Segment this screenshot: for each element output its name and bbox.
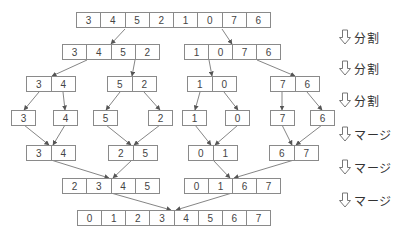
array-cell: 2 xyxy=(132,77,157,91)
connector-arrow xyxy=(282,125,292,145)
array-cell: 0 xyxy=(189,146,213,160)
array-cell: 0 xyxy=(185,179,208,193)
array-cell: 6 xyxy=(246,13,270,27)
connector-arrow xyxy=(307,92,322,110)
connector-arrow xyxy=(224,92,238,110)
array-cell: 6 xyxy=(270,146,294,160)
array-cell: 6 xyxy=(222,211,246,225)
array-box-split-2: 10 xyxy=(187,76,237,92)
array-cell: 4 xyxy=(51,77,76,91)
array-box-split-2: 52 xyxy=(107,76,157,92)
step-label-text: 分割 xyxy=(354,60,379,77)
array-cell: 6 xyxy=(232,179,256,193)
step-label-text: マージ xyxy=(354,159,392,176)
connector-arrow xyxy=(134,125,160,145)
array-box-split-3: 7 xyxy=(270,110,295,126)
connector-arrow xyxy=(195,92,200,110)
hollow-down-arrow-icon xyxy=(338,29,352,45)
array-cell: 1 xyxy=(185,45,208,59)
step-label-text: 分割 xyxy=(354,92,379,109)
connector-arrow xyxy=(52,60,87,76)
array-box-split-2: 34 xyxy=(26,76,76,92)
step-label: 分割 xyxy=(338,29,379,45)
connector-arrow xyxy=(111,193,171,210)
connector-arrow xyxy=(222,29,232,44)
array-box-merge-1: 67 xyxy=(269,145,319,161)
array-box-split-3: 4 xyxy=(53,110,78,126)
array-cell: 0 xyxy=(78,211,101,225)
array-cell: 5 xyxy=(111,45,135,59)
array-cell: 3 xyxy=(63,45,86,59)
connector-arrow xyxy=(24,92,39,110)
array-box-merge-2: 2345 xyxy=(62,178,160,194)
array-cell: 4 xyxy=(51,146,76,160)
array-cell: 1 xyxy=(213,146,238,160)
array-cell: 7 xyxy=(232,45,256,59)
array-cell: 7 xyxy=(222,13,246,27)
array-cell: 2 xyxy=(125,211,149,225)
array-cell: 1 xyxy=(101,211,125,225)
step-label: 分割 xyxy=(338,60,379,76)
array-cell: 7 xyxy=(294,146,319,160)
array-cell: 1 xyxy=(183,111,206,125)
array-cell: 5 xyxy=(94,111,117,125)
array-box-merge-1: 25 xyxy=(108,145,158,161)
connector-arrow xyxy=(213,160,230,178)
array-cell: 2 xyxy=(63,179,86,193)
array-cell: 2 xyxy=(149,111,172,125)
hollow-down-arrow-icon xyxy=(338,159,352,175)
array-box-split-3: 3 xyxy=(11,110,36,126)
array-cell: 0 xyxy=(226,111,249,125)
array-cell: 5 xyxy=(108,77,132,91)
array-box-split-1: 1076 xyxy=(184,44,281,60)
array-cell: 2 xyxy=(149,13,173,27)
step-label-text: マージ xyxy=(354,192,392,209)
merge-sort-diagram: 3452107634521076345210763452107634250167… xyxy=(0,0,401,239)
array-cell: 3 xyxy=(27,146,51,160)
array-cell: 1 xyxy=(188,77,212,91)
array-cell: 7 xyxy=(271,77,295,91)
connector-arrow xyxy=(24,125,49,145)
connector-arrow xyxy=(144,92,160,110)
array-cell: 4 xyxy=(174,211,198,225)
array-cell: 3 xyxy=(12,111,35,125)
array-cell: 2 xyxy=(109,146,133,160)
hollow-down-arrow-icon xyxy=(338,60,352,76)
connector-arrow xyxy=(296,125,322,145)
array-cell: 2 xyxy=(135,45,159,59)
hollow-down-arrow-icon xyxy=(338,92,352,108)
connector-arrow xyxy=(106,125,131,145)
array-box-split-1: 3452 xyxy=(62,44,160,60)
connector-arrow xyxy=(195,125,211,145)
array-cell: 4 xyxy=(54,111,77,125)
connector-arrow xyxy=(111,29,125,44)
connector-arrow xyxy=(106,92,120,110)
connector-arrow xyxy=(234,160,294,178)
step-label: マージ xyxy=(338,192,392,208)
array-cell: 6 xyxy=(256,45,280,59)
array-cell: 5 xyxy=(135,179,159,193)
step-label: 分割 xyxy=(338,92,379,108)
connector-arrow xyxy=(257,60,295,76)
array-cell: 4 xyxy=(86,45,110,59)
array-box-split-2: 76 xyxy=(270,76,320,92)
connector-arrow xyxy=(176,193,232,210)
step-label: マージ xyxy=(338,159,392,175)
array-box-merge-3: 01234567 xyxy=(77,210,271,226)
connector-arrow xyxy=(63,92,65,110)
array-box-split-3: 1 xyxy=(182,110,207,126)
array-cell: 1 xyxy=(208,179,232,193)
array-cell: 7 xyxy=(256,179,280,193)
connector-arrow xyxy=(132,60,135,76)
array-box-split-3: 6 xyxy=(310,110,335,126)
array-cell: 0 xyxy=(197,13,221,27)
array-cell: 7 xyxy=(271,111,294,125)
array-box-merge-2: 0167 xyxy=(184,178,281,194)
array-cell: 4 xyxy=(111,179,135,193)
array-cell: 3 xyxy=(86,179,110,193)
step-label-text: 分割 xyxy=(354,29,379,46)
array-box-merge-1: 34 xyxy=(26,145,76,161)
array-cell: 0 xyxy=(208,45,232,59)
array-cell: 3 xyxy=(149,211,173,225)
array-cell: 3 xyxy=(27,77,51,91)
